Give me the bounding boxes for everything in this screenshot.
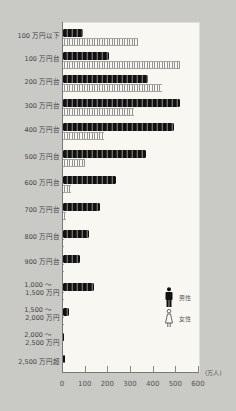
category-label: 700 万円台 bbox=[25, 206, 60, 214]
x-tick bbox=[130, 366, 131, 372]
bar-male bbox=[63, 123, 174, 131]
category-label: 300 万円台 bbox=[25, 102, 60, 110]
cropped-caption bbox=[20, 0, 220, 6]
x-tick-label: 600 bbox=[191, 380, 204, 388]
x-tick-label: 300 bbox=[123, 380, 136, 388]
category-label: 400 万円台 bbox=[25, 126, 60, 134]
bar-female bbox=[63, 61, 180, 69]
unit-label: (万人) bbox=[205, 368, 222, 377]
bar-female bbox=[63, 292, 64, 300]
x-axis bbox=[62, 372, 199, 373]
male-figure-icon bbox=[165, 287, 173, 307]
bar-female bbox=[63, 264, 64, 272]
bar-male bbox=[63, 176, 116, 184]
bar-male bbox=[63, 99, 180, 107]
female-figure-icon bbox=[165, 309, 173, 327]
legend-male: 男性 bbox=[165, 287, 191, 307]
bar-male bbox=[63, 75, 148, 83]
bar-male bbox=[63, 230, 89, 238]
bar-male bbox=[63, 283, 94, 291]
bar-male bbox=[63, 203, 100, 211]
category-label: 600 万円台 bbox=[25, 179, 60, 187]
x-tick bbox=[153, 366, 154, 372]
legend-male-label: 男性 bbox=[179, 293, 191, 302]
bar-female bbox=[63, 84, 162, 92]
bar-male bbox=[63, 255, 80, 263]
category-label: 100 万円以下 bbox=[18, 32, 60, 40]
bar-male bbox=[63, 355, 65, 363]
x-tick bbox=[107, 366, 108, 372]
category-label: 2,500 万円超 bbox=[18, 358, 60, 366]
category-label: 800 万円台 bbox=[25, 233, 60, 241]
x-tick-label: 200 bbox=[101, 380, 114, 388]
x-tick bbox=[198, 366, 199, 372]
legend-female: 女性 bbox=[165, 309, 191, 327]
category-label: 1,000 ～1,500 万円 bbox=[24, 281, 60, 297]
bar-female bbox=[63, 317, 64, 325]
bar-female bbox=[63, 212, 66, 220]
category-label: 2,000 ～2,500 万円 bbox=[24, 331, 60, 347]
bar-female bbox=[63, 185, 71, 193]
x-tick-label: 0 bbox=[60, 380, 64, 388]
bar-male bbox=[63, 29, 83, 37]
x-tick bbox=[175, 366, 176, 372]
x-tick-label: 500 bbox=[169, 380, 182, 388]
category-label: 500 万円台 bbox=[25, 153, 60, 161]
bar-male bbox=[63, 308, 69, 316]
bar-male bbox=[63, 150, 146, 158]
bar-female bbox=[63, 108, 134, 116]
legend-female-label: 女性 bbox=[179, 314, 191, 323]
bar-female bbox=[63, 159, 85, 167]
x-tick-label: 100 bbox=[78, 380, 91, 388]
bar-female bbox=[63, 38, 138, 46]
x-tick bbox=[85, 366, 86, 372]
category-label: 900 万円台 bbox=[25, 258, 60, 266]
bar-male bbox=[63, 52, 109, 60]
x-tick-label: 400 bbox=[146, 380, 159, 388]
category-label: 100 万円台 bbox=[25, 55, 60, 63]
category-label: 200 万円台 bbox=[25, 78, 60, 86]
category-label: 1,500 ～2,000 万円 bbox=[24, 306, 60, 322]
bar-female bbox=[63, 239, 64, 247]
bar-female bbox=[63, 132, 104, 140]
bar-male bbox=[63, 333, 64, 341]
